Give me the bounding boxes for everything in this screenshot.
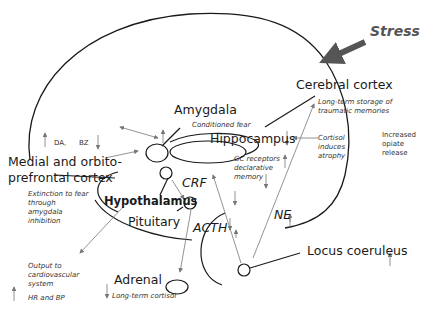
adrenal-note: Long-term cortisol bbox=[112, 292, 176, 301]
crf-label: CRF bbox=[182, 177, 207, 190]
acth-label: ACTH bbox=[193, 222, 227, 235]
opiate-note: Increased opiate release bbox=[382, 131, 421, 158]
bz-label: BZ bbox=[79, 139, 89, 148]
locus-coeruleus-node bbox=[238, 264, 250, 276]
locus-coeruleus-label: Locus coeruleus bbox=[307, 245, 408, 258]
prefrontal-note: Extinction to fear through amygdala inhi… bbox=[28, 190, 90, 226]
prefrontal-label-1: Medial and orbito- bbox=[8, 156, 122, 169]
hypothalamus-node bbox=[160, 167, 172, 179]
hypothalamus-label: Hypothalamus bbox=[104, 196, 197, 208]
hippocampus-side-note: Cortisol induces atrophy bbox=[318, 134, 358, 161]
adrenal-label: Adrenal bbox=[114, 274, 162, 287]
stress-label: Stress bbox=[370, 24, 420, 38]
da-label: DA, bbox=[54, 139, 66, 148]
pituitary-label: Pituitary bbox=[128, 216, 180, 229]
prefrontal-label-2: prefrontal cortex bbox=[8, 172, 113, 185]
hippocampus-note: GC receptors declarative memory bbox=[234, 155, 294, 182]
stress-brain-diagram: Stress Cerebral cortex Long-term storage… bbox=[0, 0, 421, 311]
cerebral-cortex-label: Cerebral cortex bbox=[296, 79, 393, 92]
hr-bp-note: HR and BP bbox=[28, 294, 65, 303]
amygdala-label: Amygdala bbox=[174, 104, 237, 117]
ne-label: NE bbox=[274, 209, 291, 222]
cardio-note: Output to cardiovascular system bbox=[28, 262, 88, 289]
amygdala-note: Conditioned fear bbox=[192, 121, 250, 130]
amygdala-node bbox=[146, 144, 168, 162]
cerebral-cortex-note: Long-term storage of traumatic memories bbox=[318, 98, 418, 116]
hippocampus-label: Hippocampus bbox=[210, 133, 295, 146]
